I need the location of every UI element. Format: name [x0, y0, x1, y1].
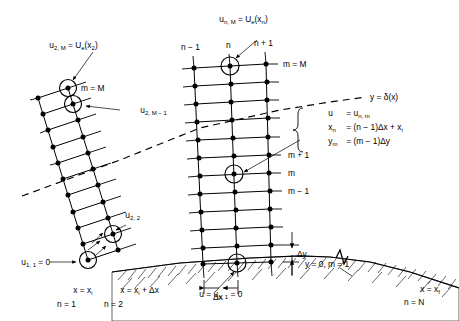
- svg-text:= (m − 1)Δy: = (m − 1)Δy: [330, 136, 402, 146]
- svg-text:u2, 2: u2, 2: [109, 210, 152, 222]
- svg-text:u1, 1 = 0: u1, 1 = 0: [5, 257, 62, 268]
- leader-xfinal: [340, 268, 352, 276]
- boundary-layer-grid-figure: u2, M = Ue(x2) m = M u2, M − 1 u2, 2 u1,…: [0, 0, 459, 321]
- label-u11-equals-zero: u1, 1 = 0: [5, 257, 62, 268]
- definition-equations: u = un, m xn = (n − 1)Δx + xi ym = (m − …: [312, 108, 414, 148]
- svg-text:x = xf: x = xf: [404, 284, 452, 296]
- svg-text:= un, m: = un, m: [330, 108, 382, 120]
- svg-text:n = 1: n = 1: [57, 299, 76, 309]
- label-column-n-minus-1: n − 1: [181, 42, 200, 52]
- label-u22: u2, 2: [109, 210, 152, 222]
- svg-text:u2, M − 1: u2, M − 1: [124, 105, 178, 117]
- svg-text:n = N: n = N: [404, 297, 424, 307]
- label-wall-u-equals-zero: u = un, 1 = 0: [183, 289, 254, 300]
- leader-u2M-1: [86, 106, 120, 110]
- svg-text:u2, M = Ue(x2): u2, M = Ue(x2): [33, 40, 109, 51]
- leader-u22: [116, 225, 126, 230]
- right-grid-nodes: [192, 62, 274, 267]
- label-row-m-minus-1: m − 1: [288, 186, 310, 196]
- label-left-m-equals-M: m = M: [81, 83, 105, 93]
- label-x-initial: x = xi n = 1: [57, 285, 104, 309]
- definition-brace: [293, 108, 303, 152]
- label-x-final: x = xf n = N: [404, 284, 452, 307]
- leader-u2M: [73, 52, 93, 80]
- label-delta-edge: y = δ(x): [370, 92, 398, 102]
- label-delta-y: Δy: [297, 249, 308, 259]
- label-column-n-plus-1: n + 1: [254, 38, 273, 48]
- right-station-grid: [182, 52, 283, 278]
- figure-canvas: u2, M = Ue(x2) m = M u2, M − 1 u2, 2 u1,…: [0, 0, 459, 321]
- label-wall-boundary-condition: y = 0, m = 1: [305, 259, 350, 269]
- label-row-m: m: [288, 168, 295, 178]
- label-unM-equation: un, M = Ue(xn): [203, 14, 279, 25]
- label-u2M-minus-1: u2, M − 1: [124, 105, 178, 117]
- label-right-m-equals-M: m = M: [283, 59, 307, 69]
- label-row-m-plus-1: m + 1: [288, 150, 310, 160]
- svg-text:n = 2: n = 2: [104, 299, 123, 309]
- label-x-second: x = xi + Δx n = 2: [104, 285, 171, 309]
- svg-text:u = un, 1 = 0: u = un, 1 = 0: [183, 289, 254, 300]
- label-u2M-equation: u2, M = Ue(x2): [33, 40, 109, 51]
- label-column-n: n: [226, 40, 231, 50]
- svg-text:x = xi: x = xi: [57, 285, 104, 297]
- svg-text:un, M = Ue(xn): un, M = Ue(xn): [203, 14, 279, 25]
- svg-text:x = xi + Δx: x = xi + Δx: [104, 285, 171, 296]
